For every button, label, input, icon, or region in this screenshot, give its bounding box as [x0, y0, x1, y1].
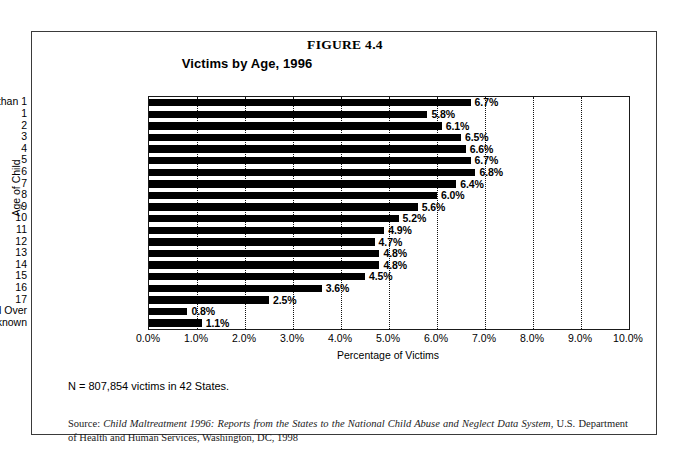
bar-value-label: 1.1% [206, 317, 230, 329]
bar-row: 1.1% [149, 318, 629, 329]
bar-row: 5.8% [149, 109, 629, 120]
y-axis-title: Age of Child [10, 128, 22, 248]
bar-row: 6.4% [149, 179, 629, 190]
bar-value-label: 4.7% [379, 236, 403, 248]
bar-value-label: 6.0% [441, 189, 465, 201]
y-axis-tick-label: 17 [0, 294, 27, 305]
bar-value-label: 6.6% [470, 143, 494, 155]
bar [149, 157, 471, 164]
bar-value-label: 6.7% [475, 96, 499, 108]
bar [149, 215, 399, 222]
bar [149, 319, 202, 326]
bar-value-label: 3.6% [326, 282, 350, 294]
bar [149, 308, 187, 315]
bar [149, 180, 456, 187]
bar-row: 6.6% [149, 144, 629, 155]
bar [149, 169, 475, 176]
bar-value-label: 6.4% [460, 178, 484, 190]
bar [149, 227, 384, 234]
y-axis-tick-label: 15 [0, 270, 27, 281]
bar-row: 0.8% [149, 306, 629, 317]
bar-value-label: 5.6% [422, 201, 446, 213]
bar-row: 4.9% [149, 225, 629, 236]
bar-row: 5.2% [149, 213, 629, 224]
chart-subtitle: Victims by Age, 1996 [32, 56, 462, 71]
x-axis-tick-labels: 0.0%1.0%2.0%3.0%4.0%5.0%6.0%7.0%8.0%9.0%… [148, 332, 628, 346]
bar [149, 122, 442, 129]
bar-row: 6.8% [149, 167, 629, 178]
bar [149, 238, 375, 245]
y-axis-tick-label: Unknown [0, 317, 27, 328]
bar-value-label: 4.9% [388, 224, 412, 236]
bar [149, 296, 269, 303]
y-axis-tick-label: 13 [0, 247, 27, 258]
bar-value-label: 4.8% [383, 247, 407, 259]
bar [149, 273, 365, 280]
x-axis-tick-label: 10.0% [598, 332, 658, 344]
bar [149, 145, 466, 152]
bar [149, 111, 427, 118]
bar [149, 192, 437, 199]
bar [149, 203, 418, 210]
x-axis-title: Percentage of Victims [148, 349, 628, 361]
y-axis-tick-label: 1 [0, 108, 27, 119]
bar-value-label: 6.7% [475, 154, 499, 166]
bar-row: 5.6% [149, 202, 629, 213]
bar-row: 4.7% [149, 237, 629, 248]
bar-value-label: 6.1% [446, 120, 470, 132]
bar [149, 99, 471, 106]
bar-value-label: 6.5% [465, 131, 489, 143]
bar-value-label: 6.8% [479, 166, 503, 178]
y-axis-tick-label: 16 [0, 282, 27, 293]
sample-size-note: N = 807,854 victims in 42 States. [68, 380, 229, 392]
plot-area: 6.7%5.8%6.1%6.5%6.6%6.7%6.8%6.4%6.0%5.6%… [148, 96, 630, 330]
bar-row: 3.6% [149, 283, 629, 294]
bar-row: 6.7% [149, 97, 629, 108]
bar-series: 6.7%5.8%6.1%6.5%6.6%6.7%6.8%6.4%6.0%5.6%… [149, 97, 629, 329]
source-prefix: Source: [68, 418, 103, 429]
bar-value-label: 0.8% [191, 305, 215, 317]
bar-value-label: 5.2% [403, 212, 427, 224]
source-title: Child Maltreatment 1996: Reports from th… [103, 418, 550, 429]
bar [149, 261, 379, 268]
bar-value-label: 4.8% [383, 259, 407, 271]
y-axis-tick-label: Less than 1 [0, 96, 27, 107]
bar [149, 134, 461, 141]
bar-row: 6.0% [149, 190, 629, 201]
source-note: Source: Child Maltreatment 1996: Reports… [68, 417, 628, 445]
bar [149, 285, 322, 292]
y-axis-tick-label: 18 and Over [0, 305, 27, 316]
y-axis-tick-label: 14 [0, 259, 27, 270]
bar-row: 4.8% [149, 248, 629, 259]
bar-row: 4.8% [149, 260, 629, 271]
bar-row: 6.7% [149, 155, 629, 166]
figure-number: FIGURE 4.4 [32, 37, 658, 53]
bar-row: 2.5% [149, 295, 629, 306]
bar-value-label: 2.5% [273, 294, 297, 306]
bar-value-label: 4.5% [369, 270, 393, 282]
bar [149, 250, 379, 257]
bar-value-label: 5.8% [431, 108, 455, 120]
figure-frame: FIGURE 4.4 Victims by Age, 1996 Less tha… [31, 31, 657, 435]
bar-row: 6.5% [149, 132, 629, 143]
bar-row: 4.5% [149, 271, 629, 282]
bar-row: 6.1% [149, 121, 629, 132]
